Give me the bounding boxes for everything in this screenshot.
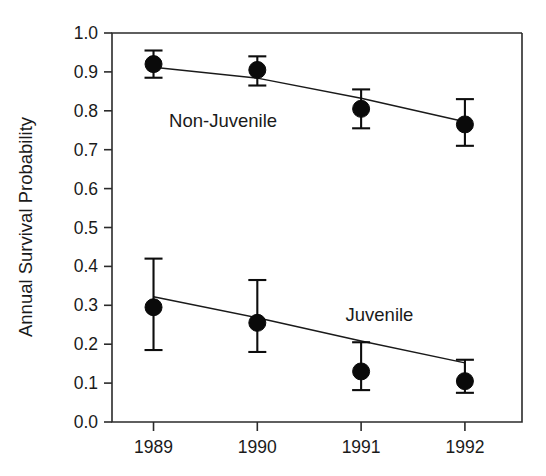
y-tick-label: 0.7 <box>74 140 98 160</box>
x-tick-label: 1990 <box>238 437 277 457</box>
y-tick-label: 0.0 <box>74 412 99 432</box>
y-tick-label: 0.8 <box>74 101 98 121</box>
trend-line-juvenile <box>154 297 465 363</box>
data-point <box>456 373 473 390</box>
y-tick-label: 0.1 <box>74 373 98 393</box>
data-markers-layer <box>145 56 473 390</box>
data-point <box>456 116 473 133</box>
y-tick-label: 0.4 <box>74 256 99 276</box>
data-point <box>145 299 162 316</box>
data-point <box>353 100 370 117</box>
x-tick-label: 1989 <box>134 437 173 457</box>
survival-probability-chart: 0.00.10.20.30.40.50.60.70.80.91.0 198919… <box>0 0 546 476</box>
y-axis-title: Annual Survival Probability <box>15 116 36 337</box>
data-point <box>249 61 266 78</box>
x-tick-label: 1992 <box>445 437 484 457</box>
y-tick-label: 0.2 <box>74 334 98 354</box>
x-axis-ticks: 1989199019911992 <box>134 422 484 457</box>
y-tick-label: 0.9 <box>74 62 98 82</box>
y-tick-label: 1.0 <box>74 23 99 43</box>
data-point <box>353 363 370 380</box>
x-tick-label: 1991 <box>342 437 381 457</box>
series-label-juvenile: Juvenile <box>346 304 414 325</box>
series-label-non-juvenile: Non-Juvenile <box>169 110 277 131</box>
error-bars-layer <box>145 51 474 393</box>
data-point <box>249 314 266 331</box>
series-annotations-layer: Non-JuvenileJuvenile <box>169 110 413 326</box>
y-tick-label: 0.3 <box>74 295 98 315</box>
figure-container: 0.00.10.20.30.40.50.60.70.80.91.0 198919… <box>0 0 546 476</box>
data-point <box>145 56 162 73</box>
y-tick-label: 0.5 <box>74 218 98 238</box>
plot-frame <box>112 33 522 422</box>
y-tick-label: 0.6 <box>74 179 98 199</box>
y-axis-ticks: 0.00.10.20.30.40.50.60.70.80.91.0 <box>74 23 112 432</box>
